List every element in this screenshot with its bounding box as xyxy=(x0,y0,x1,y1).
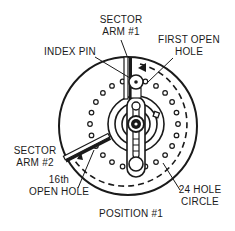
index-hole xyxy=(163,91,168,96)
index-hole xyxy=(110,160,115,165)
index-hole xyxy=(94,100,99,105)
index-hole xyxy=(89,110,94,115)
lock-screw xyxy=(153,111,159,117)
sector-arm-2 xyxy=(63,134,111,163)
label-sixteenth-open-hole: 16th OPEN HOLE xyxy=(26,174,92,198)
index-hole xyxy=(120,164,125,169)
crank-arm xyxy=(127,97,145,177)
label-sector-arm-1: SECTOR ARM #1 xyxy=(95,14,147,38)
hub-nut xyxy=(128,116,144,132)
index-hole xyxy=(89,133,94,138)
index-hole xyxy=(174,133,179,138)
index-hole xyxy=(170,144,175,149)
index-pin xyxy=(129,75,143,98)
index-hole xyxy=(170,100,175,105)
index-hole xyxy=(174,110,179,115)
index-hole xyxy=(101,153,106,158)
label-sector-arm-2: SECTOR ARM #2 xyxy=(10,145,60,169)
index-hole xyxy=(110,84,115,89)
leader-sector-arm-1 xyxy=(121,40,127,56)
index-hole xyxy=(154,84,159,89)
index-hole xyxy=(176,122,181,127)
index-plate-diagram: SECTOR ARM #1 INDEX PIN FIRST OPEN HOLE … xyxy=(0,0,235,231)
label-first-open-hole: FIRST OPEN HOLE xyxy=(156,34,222,58)
index-hole xyxy=(154,160,159,165)
index-hole xyxy=(101,91,106,96)
index-hole xyxy=(88,122,93,127)
label-hole-circle: 24 HOLE CIRCLE xyxy=(172,184,228,208)
index-hole xyxy=(163,153,168,158)
label-index-pin: INDEX PIN xyxy=(42,46,98,58)
index-hole xyxy=(143,79,148,84)
diagram-caption: POSITION #1 xyxy=(96,208,166,220)
